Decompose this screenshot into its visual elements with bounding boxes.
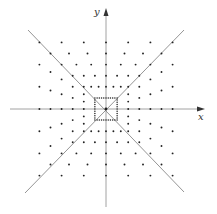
lattice-point <box>116 113 118 115</box>
lattice-point <box>120 152 122 154</box>
lattice-point <box>161 71 163 73</box>
lattice-point <box>114 97 116 99</box>
y-axis-label: y <box>93 6 100 17</box>
lattice-point <box>142 53 144 55</box>
lattice-point <box>94 75 96 77</box>
lattice-point <box>61 41 63 43</box>
lattice-point <box>72 86 74 88</box>
lattice-point <box>124 164 126 166</box>
lattice-point <box>101 97 103 99</box>
lattice-point <box>149 152 151 154</box>
lattice-point <box>138 86 140 88</box>
lattice-point <box>94 113 96 115</box>
lattice-point <box>116 115 118 117</box>
lattice-point <box>83 141 85 143</box>
lattice-point <box>149 175 151 177</box>
lattice-point <box>127 86 129 88</box>
lattice-point <box>172 108 174 110</box>
lattice-point <box>61 78 63 80</box>
lattice-point <box>72 130 74 132</box>
lattice-point <box>138 108 140 110</box>
lattice-point <box>105 164 107 166</box>
lattice-point <box>38 64 40 66</box>
lattice-point <box>83 41 85 43</box>
lattice-point <box>172 64 174 66</box>
lattice-point <box>138 141 140 143</box>
lattice-point <box>38 41 40 43</box>
lattice-point <box>96 119 98 121</box>
lattice-point <box>98 86 100 88</box>
lattice-point <box>127 175 129 177</box>
lattice-point <box>90 130 92 132</box>
lattice-point <box>50 90 52 92</box>
lattice-point <box>83 75 85 77</box>
lattice-point <box>98 130 100 132</box>
lattice-point <box>94 97 96 99</box>
lattice-point <box>107 97 109 99</box>
lattice-point <box>127 130 129 132</box>
lattice-point <box>138 97 140 99</box>
lattice-point <box>116 117 118 119</box>
lattice-point <box>75 152 77 154</box>
lattice-point <box>103 119 105 121</box>
lattice-point <box>107 119 109 121</box>
lattice-point <box>127 93 129 95</box>
lattice-point <box>61 64 63 66</box>
lattice-point <box>124 53 126 55</box>
lattice-point <box>94 115 96 117</box>
lattice-point <box>103 97 105 99</box>
lattice-point <box>127 123 129 125</box>
lattice-point <box>50 71 52 73</box>
lattice-point <box>105 41 107 43</box>
diagonal-lines <box>25 30 184 193</box>
lattice-point <box>38 130 40 132</box>
lattice-point <box>105 64 107 66</box>
lattice-point <box>90 86 92 88</box>
lattice-point <box>161 53 163 55</box>
lattice-point <box>105 130 107 132</box>
lattice-point <box>50 108 52 110</box>
lattice-point <box>94 108 96 110</box>
lattice-point <box>110 97 112 99</box>
lattice-point <box>142 164 144 166</box>
lattice-point <box>149 138 151 140</box>
lattice-point <box>83 130 85 132</box>
lattice-point <box>75 64 77 66</box>
lattice-point <box>99 97 101 99</box>
lattice-point <box>99 119 101 121</box>
lattice-point <box>94 102 96 104</box>
lattice-point <box>87 164 89 166</box>
lattice-point <box>72 119 74 121</box>
lattice-point <box>116 141 118 143</box>
lattice-point <box>105 75 107 77</box>
lattice-point <box>83 86 85 88</box>
lattice-point <box>105 86 107 88</box>
lattice-diagram: x y <box>0 0 217 214</box>
lattice-point <box>38 152 40 154</box>
lattice-point <box>38 175 40 177</box>
lattice-point <box>116 97 118 99</box>
lattice-point <box>149 41 151 43</box>
lattice-point <box>120 86 122 88</box>
lattice-point <box>83 101 85 103</box>
lattice-point <box>50 145 52 147</box>
lattice-point <box>94 104 96 106</box>
lattice-point <box>112 130 114 132</box>
lattice-point <box>105 53 107 55</box>
lattice-point <box>94 141 96 143</box>
lattice-point <box>94 99 96 101</box>
lattice-point <box>112 97 114 99</box>
lattice-point <box>116 119 118 121</box>
lattice-point <box>127 115 129 117</box>
lattice-point <box>172 152 174 154</box>
lattice-point <box>72 108 74 110</box>
lattice-point <box>94 106 96 108</box>
lattice-point <box>116 102 118 104</box>
lattice-point <box>114 119 116 121</box>
lattice-point <box>149 123 151 125</box>
lattice-point <box>105 108 108 111</box>
lattice-point <box>135 64 137 66</box>
lattice-point <box>90 64 92 66</box>
lattice-point <box>61 123 63 125</box>
lattice-point <box>112 86 114 88</box>
